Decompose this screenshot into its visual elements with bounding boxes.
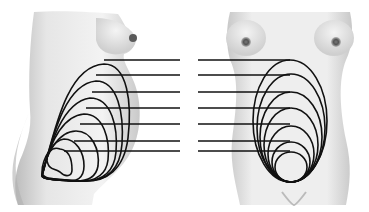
nipple-side (129, 34, 137, 42)
pregnancy-fundal-height-diagram (0, 0, 369, 212)
diagram-canvas (0, 0, 369, 212)
nipple-left-front (241, 37, 251, 47)
nipple-right-front (331, 37, 341, 47)
